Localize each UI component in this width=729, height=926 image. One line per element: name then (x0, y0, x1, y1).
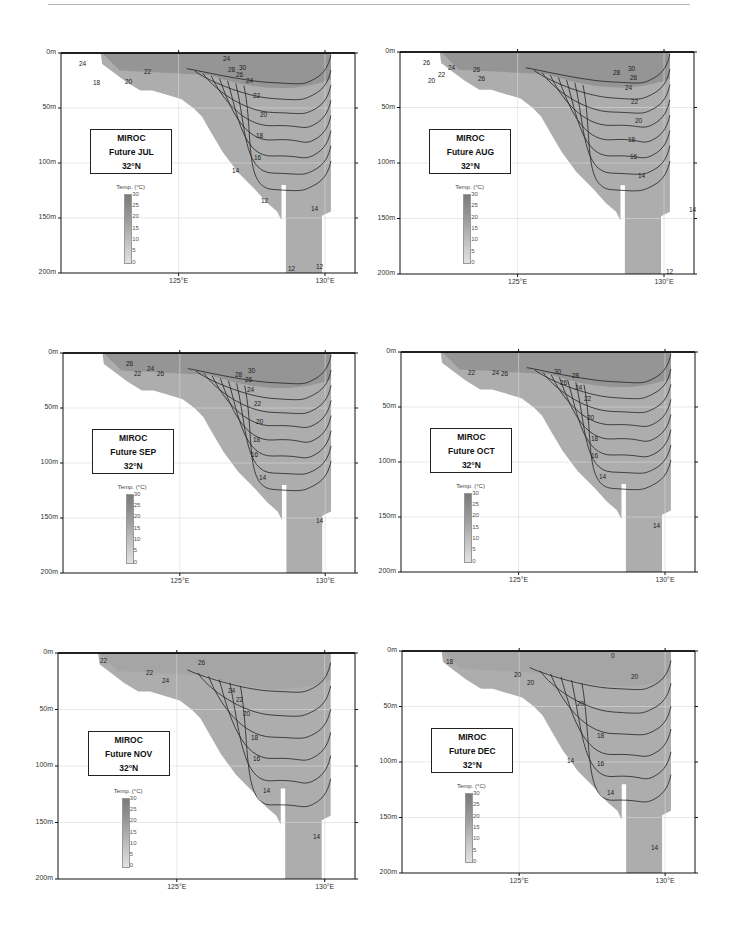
colorbar-tick-label: 15 (130, 829, 137, 835)
contour-label: 26 (423, 59, 431, 66)
contour-label: 14 (689, 206, 697, 213)
contour-label: 14 (263, 787, 271, 794)
panel-label-model: MIROC (431, 430, 511, 444)
contour-label: 16 (597, 760, 605, 767)
y-tick-label: 200m (26, 268, 56, 275)
contour-label: 14 (259, 474, 267, 481)
x-tick-label: 130°E (305, 577, 345, 584)
contour-label: 24 (246, 77, 254, 84)
panel-label-model: MIROC (430, 131, 510, 145)
colorbar-tick-label: 25 (471, 202, 478, 208)
contour-label: 20 (631, 673, 639, 680)
contour-label: 26 (236, 71, 244, 78)
contour-label: 24 (575, 384, 583, 391)
section-panel-sep: 26242226302826242220181614140m50m100m150… (63, 353, 355, 573)
colorbar-tick-label: 10 (471, 236, 478, 242)
panel-label-model: MIROC (91, 131, 171, 145)
contour-label: 20 (527, 679, 535, 686)
colorbar-tick-label: 5 (132, 247, 135, 253)
contour-label: 20 (125, 78, 133, 85)
x-tick-label: 125°E (499, 576, 539, 583)
colorbar-tick-label: 10 (132, 236, 139, 242)
colorbar-tick-label: 30 (473, 790, 480, 796)
panel-label-period: Future JUL (91, 145, 171, 159)
contour-label: 16 (630, 153, 638, 160)
colorbar (124, 194, 132, 264)
contour-label: 30 (248, 367, 256, 374)
contour-label: 24 (625, 84, 633, 91)
y-tick-label: 150m (367, 813, 397, 820)
y-tick-label: 0m (365, 47, 395, 54)
contour-label: 22 (438, 71, 446, 78)
contour-label: 0 (611, 652, 615, 659)
contour-label: 30 (554, 368, 562, 375)
contour-label: 22 (100, 657, 108, 664)
panel-label-box: MIROCFuture AUG32°N (429, 129, 511, 174)
contour-label: 22 (254, 400, 262, 407)
contour-label: 18 (253, 436, 261, 443)
colorbar-tick-label: 20 (471, 214, 478, 220)
colorbar-tick-label: 0 (473, 858, 476, 864)
contour-label: 20 (260, 111, 268, 118)
colorbar-tick-label: 25 (134, 502, 141, 508)
contour-label: 22 (134, 370, 142, 377)
contour-label: 14 (313, 833, 321, 840)
contour-label: 16 (253, 755, 261, 762)
contour-label: 28 (228, 66, 236, 73)
colorbar-title: Temp. (°C) (455, 184, 484, 190)
contour-label: 22 (468, 369, 476, 376)
panel-label-box: MIROCFuture OCT32°N (430, 428, 512, 473)
panel-label-period: Future SEP (93, 445, 173, 459)
colorbar-tick-label: 10 (134, 536, 141, 542)
y-tick-label: 50m (365, 103, 395, 110)
y-tick-label: 100m (366, 457, 396, 464)
contour-label: 22 (253, 92, 261, 99)
panel-label-lat: 32°N (432, 758, 512, 772)
contour-label: 18 (256, 132, 264, 139)
colorbar-tick-label: 25 (473, 801, 480, 807)
colorbar-tick-label: 30 (471, 191, 478, 197)
section-panel-nov: 22222426242220181614140m50m100m150m200m1… (58, 653, 355, 879)
panel-label-period: Future OCT (431, 444, 511, 458)
contour-label: 20 (256, 418, 264, 425)
contour-label: 20 (243, 710, 251, 717)
contour-label: 18 (446, 658, 454, 665)
colorbar-tick-label: 20 (134, 513, 141, 519)
contour-label: 14 (316, 517, 324, 524)
contour-label: 24 (247, 386, 255, 393)
colorbar-tick-label: 5 (134, 547, 137, 553)
contour-label: 20 (587, 414, 595, 421)
panel-label-model: MIROC (89, 733, 169, 747)
contour-label: 16 (591, 452, 599, 459)
y-tick-label: 50m (366, 402, 396, 409)
section-panel-dec: 1820202020018161414140m50m100m150m200m12… (402, 651, 695, 873)
x-tick-label: 130°E (645, 877, 685, 884)
panel-label-box: MIROCFuture NOV32°N (88, 731, 170, 776)
panel-label-box: MIROCFuture JUL32°N (90, 129, 172, 174)
panel-label-period: Future NOV (89, 747, 169, 761)
y-tick-label: 150m (26, 213, 56, 220)
panel-label-lat: 32°N (91, 159, 171, 173)
contour-label: 30 (628, 65, 636, 72)
contour-label: 26 (245, 376, 253, 383)
colorbar (126, 494, 134, 564)
colorbar-title: Temp. (°C) (456, 483, 485, 489)
y-tick-label: 0m (23, 648, 53, 655)
contour-label: 24 (79, 60, 87, 67)
colorbar-tick-label: 15 (472, 524, 479, 530)
colorbar-tick-label: 15 (471, 225, 478, 231)
colorbar-tick-label: 20 (473, 813, 480, 819)
contour-label: 12 (316, 263, 324, 270)
y-tick-label: 100m (28, 458, 58, 465)
y-tick-label: 200m (367, 868, 397, 875)
panel-label-model: MIROC (432, 730, 512, 744)
contour-label: 18 (93, 79, 101, 86)
y-tick-label: 50m (23, 705, 53, 712)
colorbar-tick-label: 20 (472, 512, 479, 518)
colorbar-tick-label: 0 (471, 259, 474, 265)
y-tick-label: 200m (28, 568, 58, 575)
x-tick-label: 130°E (305, 277, 345, 284)
y-tick-label: 150m (366, 512, 396, 519)
panel-label-period: Future DEC (432, 744, 512, 758)
panel-label-model: MIROC (93, 431, 173, 445)
